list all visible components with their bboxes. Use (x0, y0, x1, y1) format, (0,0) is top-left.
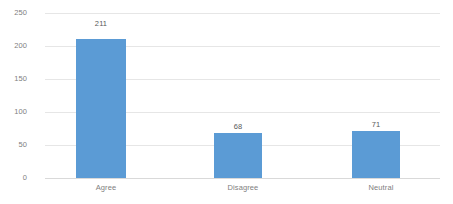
ytick-label-50: 50 (0, 141, 27, 149)
plot-area: 250 200 150 100 50 0 211 68 71 (45, 13, 440, 178)
bar-neutral[interactable] (352, 131, 400, 178)
ytick-label-150: 150 (0, 75, 27, 83)
ytick-label-200: 200 (0, 42, 27, 50)
bar-chart: 250 200 150 100 50 0 211 68 71 Agree Dis… (0, 0, 453, 204)
category-axis-line (45, 178, 440, 179)
chart-title-clipped (0, 0, 453, 5)
bar-disagree[interactable] (214, 133, 262, 178)
xtick-label-agree: Agree (46, 183, 166, 192)
bar-agree[interactable] (76, 39, 126, 178)
ytick-label-250: 250 (0, 9, 27, 17)
ytick-label-0: 0 (0, 174, 27, 182)
ytick-label-100: 100 (0, 108, 27, 116)
bar-value-agree: 211 (76, 19, 126, 28)
bar-value-neutral: 71 (352, 120, 400, 129)
bar-value-disagree: 68 (214, 122, 262, 131)
bar-series: 211 68 71 (45, 13, 440, 178)
xtick-label-neutral: Neutral (321, 183, 441, 192)
xtick-label-disagree: Disagree (183, 183, 303, 192)
